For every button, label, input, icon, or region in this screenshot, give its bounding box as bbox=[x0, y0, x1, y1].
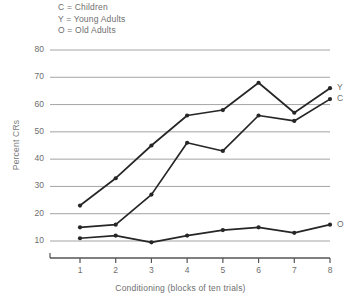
x-tick-5: 5 bbox=[215, 265, 231, 275]
y-tick-40: 40 bbox=[22, 153, 44, 163]
series-end-label-children: C bbox=[337, 93, 343, 103]
y-tick-80: 80 bbox=[22, 44, 44, 54]
series-end-label-young: Y bbox=[337, 82, 343, 92]
y-tick-70: 70 bbox=[22, 71, 44, 81]
x-tick-1: 1 bbox=[72, 265, 88, 275]
x-tick-7: 7 bbox=[286, 265, 302, 275]
y-tick-60: 60 bbox=[22, 99, 44, 109]
y-tick-10: 10 bbox=[22, 235, 44, 245]
x-tick-4: 4 bbox=[179, 265, 195, 275]
x-tick-6: 6 bbox=[251, 265, 267, 275]
x-tick-3: 3 bbox=[143, 265, 159, 275]
x-tick-8: 8 bbox=[322, 265, 338, 275]
x-tick-2: 2 bbox=[108, 265, 124, 275]
plot-area bbox=[0, 0, 361, 299]
series-end-label-old: O bbox=[337, 219, 344, 229]
y-tick-20: 20 bbox=[22, 208, 44, 218]
y-tick-50: 50 bbox=[22, 126, 44, 136]
chart-container: C = Children Y = Young Adults O = Old Ad… bbox=[0, 0, 361, 299]
y-tick-30: 30 bbox=[22, 180, 44, 190]
